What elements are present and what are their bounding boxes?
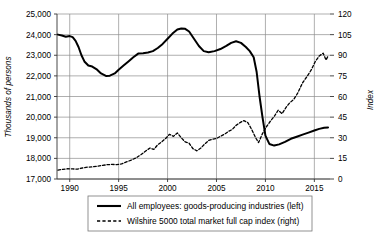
y-right-tick-label: 60 <box>338 93 348 102</box>
y-left-tick-label: 18,000 <box>26 154 51 163</box>
y-left-tick-label: 17,000 <box>26 175 51 184</box>
y-right-tick-label: 75 <box>338 72 348 81</box>
y-axis-right-title: Index <box>366 89 375 110</box>
x-tick-label: 1990 <box>61 184 80 193</box>
x-tick-label: 2015 <box>305 184 324 193</box>
x-tick-label: 1995 <box>110 184 129 193</box>
y-right-tick-label: 30 <box>338 134 348 143</box>
x-tick-label: 2010 <box>256 184 275 193</box>
y-right-tick-label: 45 <box>338 113 348 122</box>
legend-label-employees: All employees: goods-producing industrie… <box>127 201 304 211</box>
y-left-tick-label: 19,000 <box>26 134 51 143</box>
y-left-tick-label: 24,000 <box>26 31 51 40</box>
dual-axis-line-chart: 199019952000200520102015 17,00018,00019,… <box>0 0 380 236</box>
x-tick-label: 2005 <box>207 184 226 193</box>
y-right-tick-label: 120 <box>338 10 352 19</box>
y-left-tick-label: 22,000 <box>26 72 51 81</box>
x-tick-label: 2000 <box>158 184 177 193</box>
legend-item-wilshire: Wilshire 5000 total market full cap inde… <box>97 216 299 226</box>
y-left-tick-label: 20,000 <box>26 113 51 122</box>
chart-legend: All employees: goods-producing industrie… <box>88 196 312 231</box>
y-left-tick-label: 23,000 <box>26 51 51 60</box>
y-right-tick-label: 0 <box>338 175 343 184</box>
chart-container: 199019952000200520102015 17,00018,00019,… <box>0 0 380 236</box>
y-axis-left-title: Thousands of persons <box>4 56 13 137</box>
y-right-tick-label: 90 <box>338 51 348 60</box>
legend-label-wilshire: Wilshire 5000 total market full cap inde… <box>127 216 299 226</box>
legend-item-employees: All employees: goods-producing industrie… <box>97 201 304 211</box>
y-left-tick-label: 25,000 <box>26 10 51 19</box>
y-left-tick-label: 21,000 <box>26 93 51 102</box>
y-right-tick-label: 105 <box>338 31 352 40</box>
y-right-tick-label: 15 <box>338 154 348 163</box>
